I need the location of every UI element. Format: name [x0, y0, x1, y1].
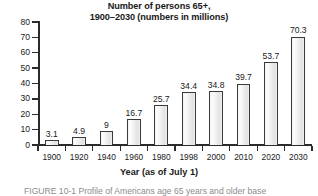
- x-axis-tick: [147, 146, 148, 151]
- x-axis-label: 2020: [257, 153, 284, 161]
- x-axis-label: 1900: [38, 153, 65, 161]
- y-axis-tick: [32, 52, 38, 53]
- x-axis-label: 1960: [120, 153, 147, 161]
- figure-caption: FIGURE 10-1 Profile of Americans age 65 …: [24, 186, 318, 196]
- bar: [209, 91, 223, 145]
- y-axis-label: 40: [0, 79, 30, 88]
- bar-value-label: 16.7: [118, 109, 149, 118]
- y-axis-label: 0: [0, 141, 30, 150]
- y-axis-label: 60: [0, 48, 30, 57]
- x-axis-label: 1920: [65, 153, 92, 161]
- y-axis-tick: [32, 37, 38, 38]
- x-axis-tick: [202, 146, 203, 151]
- y-axis-label: 10: [0, 125, 30, 134]
- x-axis-tick: [120, 146, 121, 151]
- x-axis-label: 1940: [93, 153, 120, 161]
- x-axis-tick: [257, 146, 258, 151]
- chart-title: Number of persons 65+, 1900–2030 (number…: [0, 1, 318, 24]
- bar-value-label: 34.8: [200, 81, 231, 90]
- x-axis-tick: [284, 146, 285, 151]
- bar: [100, 131, 114, 145]
- x-axis-label: 2010: [230, 153, 257, 161]
- x-axis-label: 1998: [175, 153, 202, 161]
- bar: [45, 140, 59, 145]
- x-axis-tick: [65, 146, 66, 151]
- x-axis-label: 2000: [202, 153, 229, 161]
- x-axis-label: 2030: [285, 153, 312, 161]
- y-axis-label: 50: [0, 64, 30, 73]
- bar: [237, 84, 251, 145]
- y-axis-tick: [32, 114, 38, 115]
- x-axis-label: 1980: [148, 153, 175, 161]
- bar: [291, 37, 305, 145]
- bar-value-label: 70.3: [283, 26, 314, 35]
- y-axis-tick: [32, 83, 38, 84]
- x-axis-tick: [229, 146, 230, 151]
- x-axis-tick: [37, 146, 38, 151]
- x-axis-tick: [92, 146, 93, 151]
- bar-value-label: 25.7: [146, 95, 177, 104]
- bar-value-label: 39.7: [228, 73, 259, 82]
- x-axis-tick: [311, 146, 312, 151]
- bar-value-label: 9: [91, 121, 122, 130]
- y-axis-label: 70: [0, 33, 30, 42]
- x-axis-title: Year (as of July 1): [0, 167, 318, 177]
- y-axis-label: 80: [0, 18, 30, 27]
- bar-value-label: 53.7: [255, 52, 286, 61]
- chart-title-line-2: 1900–2030 (numbers in millions): [0, 12, 318, 23]
- y-axis-tick: [32, 21, 38, 22]
- x-axis-tick: [174, 146, 175, 151]
- bar: [127, 119, 141, 145]
- bar: [72, 137, 86, 145]
- bar: [264, 62, 278, 145]
- y-axis-label: 30: [0, 94, 30, 103]
- y-axis-line: [38, 21, 40, 146]
- bar: [182, 92, 196, 145]
- bar: [154, 105, 168, 145]
- chart-title-line-1: Number of persons 65+,: [0, 1, 318, 12]
- y-axis-label: 20: [0, 110, 30, 119]
- y-axis-tick: [32, 98, 38, 99]
- y-axis-tick: [32, 67, 38, 68]
- figure-chart: Number of persons 65+, 1900–2030 (number…: [0, 0, 318, 196]
